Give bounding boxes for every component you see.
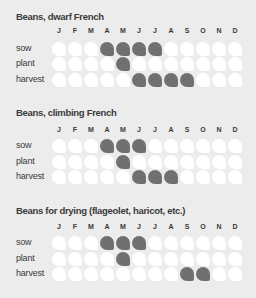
row-label: sow — [16, 140, 31, 150]
active-month-dot-icon — [180, 73, 194, 87]
month-label: F — [68, 223, 82, 230]
month-label: N — [212, 27, 226, 34]
inactive-month-dot-icon — [228, 57, 242, 71]
inactive-month-dot-icon — [52, 236, 66, 250]
month-label: J — [148, 126, 162, 133]
month-label: M — [116, 223, 130, 230]
month-label: J — [148, 27, 162, 34]
inactive-month-dot-icon — [212, 73, 226, 87]
inactive-month-dot-icon — [100, 170, 114, 184]
inactive-month-dot-icon — [196, 155, 210, 169]
month-label: J — [52, 223, 66, 230]
inactive-month-dot-icon — [164, 252, 178, 266]
month-label: M — [84, 27, 98, 34]
active-month-dot-icon — [116, 155, 130, 169]
section-title: Beans, dwarf French — [16, 11, 104, 22]
inactive-month-dot-icon — [180, 42, 194, 56]
inactive-month-dot-icon — [196, 73, 210, 87]
inactive-month-dot-icon — [100, 57, 114, 71]
inactive-month-dot-icon — [100, 267, 114, 281]
inactive-month-dot-icon — [132, 57, 146, 71]
inactive-month-dot-icon — [68, 73, 82, 87]
inactive-month-dot-icon — [84, 73, 98, 87]
inactive-month-dot-icon — [148, 252, 162, 266]
row-harvest: harvest — [0, 73, 256, 87]
active-month-dot-icon — [148, 73, 162, 87]
month-label: S — [180, 223, 194, 230]
month-label: M — [116, 126, 130, 133]
active-month-dot-icon — [196, 267, 210, 281]
inactive-month-dot-icon — [228, 42, 242, 56]
month-label: J — [132, 223, 146, 230]
inactive-month-dot-icon — [132, 267, 146, 281]
inactive-month-dot-icon — [148, 267, 162, 281]
inactive-month-dot-icon — [52, 267, 66, 281]
month-label: S — [180, 27, 194, 34]
month-label: J — [52, 126, 66, 133]
active-month-dot-icon — [132, 170, 146, 184]
inactive-month-dot-icon — [228, 170, 242, 184]
month-label: J — [52, 27, 66, 34]
inactive-month-dot-icon — [84, 267, 98, 281]
inactive-month-dot-icon — [100, 73, 114, 87]
inactive-month-dot-icon — [164, 155, 178, 169]
inactive-month-dot-icon — [148, 155, 162, 169]
inactive-month-dot-icon — [212, 252, 226, 266]
inactive-month-dot-icon — [228, 267, 242, 281]
inactive-month-dot-icon — [68, 236, 82, 250]
inactive-month-dot-icon — [212, 267, 226, 281]
inactive-month-dot-icon — [212, 155, 226, 169]
row-harvest: harvest — [0, 267, 256, 281]
active-month-dot-icon — [148, 42, 162, 56]
inactive-month-dot-icon — [212, 57, 226, 71]
active-month-dot-icon — [132, 73, 146, 87]
inactive-month-dot-icon — [196, 139, 210, 153]
month-label: D — [228, 126, 242, 133]
active-month-dot-icon — [100, 42, 114, 56]
inactive-month-dot-icon — [228, 73, 242, 87]
month-label: M — [84, 126, 98, 133]
month-label: D — [228, 27, 242, 34]
row-label: plant — [16, 58, 35, 68]
inactive-month-dot-icon — [116, 170, 130, 184]
active-month-dot-icon — [116, 236, 130, 250]
month-label: O — [196, 27, 210, 34]
inactive-month-dot-icon — [212, 139, 226, 153]
month-label: A — [164, 126, 178, 133]
inactive-month-dot-icon — [84, 236, 98, 250]
inactive-month-dot-icon — [100, 252, 114, 266]
inactive-month-dot-icon — [148, 236, 162, 250]
active-month-dot-icon — [164, 73, 178, 87]
row-label: plant — [16, 156, 35, 166]
inactive-month-dot-icon — [68, 267, 82, 281]
inactive-month-dot-icon — [116, 267, 130, 281]
month-label: M — [84, 223, 98, 230]
inactive-month-dot-icon — [164, 42, 178, 56]
active-month-dot-icon — [100, 236, 114, 250]
inactive-month-dot-icon — [196, 42, 210, 56]
inactive-month-dot-icon — [52, 73, 66, 87]
inactive-month-dot-icon — [132, 155, 146, 169]
inactive-month-dot-icon — [100, 155, 114, 169]
inactive-month-dot-icon — [212, 236, 226, 250]
month-label: A — [100, 223, 114, 230]
inactive-month-dot-icon — [212, 170, 226, 184]
active-month-dot-icon — [132, 236, 146, 250]
inactive-month-dot-icon — [180, 139, 194, 153]
inactive-month-dot-icon — [196, 57, 210, 71]
month-label: N — [212, 126, 226, 133]
row-harvest: harvest — [0, 170, 256, 184]
month-label: N — [212, 223, 226, 230]
month-label: D — [228, 223, 242, 230]
inactive-month-dot-icon — [196, 252, 210, 266]
month-label: O — [196, 126, 210, 133]
inactive-month-dot-icon — [228, 236, 242, 250]
inactive-month-dot-icon — [116, 73, 130, 87]
month-label: S — [180, 126, 194, 133]
inactive-month-dot-icon — [228, 155, 242, 169]
active-month-dot-icon — [132, 42, 146, 56]
inactive-month-dot-icon — [68, 252, 82, 266]
inactive-month-dot-icon — [84, 252, 98, 266]
inactive-month-dot-icon — [148, 139, 162, 153]
inactive-month-dot-icon — [84, 170, 98, 184]
